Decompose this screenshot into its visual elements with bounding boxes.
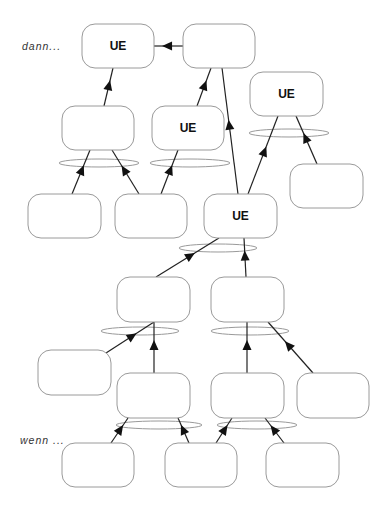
arrowhead-icon xyxy=(259,145,271,158)
node-box xyxy=(297,373,369,418)
nodes: UEUEUEUE xyxy=(28,24,369,487)
node-box xyxy=(290,164,363,208)
arrowhead-icon xyxy=(240,250,250,260)
argument-tree-diagram: UEUEUEUE dann... wenn ... xyxy=(0,0,389,516)
diagram-canvas: UEUEUEUE dann... wenn ... xyxy=(0,0,389,516)
node-empty[interactable] xyxy=(183,24,255,68)
node-box xyxy=(211,277,284,322)
conjunction-ellipse xyxy=(116,421,202,429)
node-empty[interactable] xyxy=(290,164,363,208)
node-ue[interactable]: UE xyxy=(152,106,224,150)
node-box xyxy=(117,277,190,322)
conjunction-ellipse xyxy=(59,159,139,167)
node-ue[interactable]: UE xyxy=(204,194,277,238)
label-dann: dann... xyxy=(22,40,61,52)
node-ue[interactable]: UE xyxy=(250,72,323,116)
node-box xyxy=(183,24,255,68)
node-empty[interactable] xyxy=(38,350,111,395)
arrowhead-icon xyxy=(126,329,139,342)
node-empty[interactable] xyxy=(211,373,284,418)
node-label: UE xyxy=(232,209,249,223)
arrowhead-icon xyxy=(224,119,234,130)
node-empty[interactable] xyxy=(28,194,101,238)
conjunction-ellipse xyxy=(179,244,257,252)
node-label: UE xyxy=(110,39,127,53)
arrowhead-icon xyxy=(162,42,172,51)
node-empty[interactable] xyxy=(165,443,237,487)
node-ue[interactable]: UE xyxy=(82,24,154,68)
node-empty[interactable] xyxy=(297,373,369,418)
node-box xyxy=(62,106,134,150)
node-empty[interactable] xyxy=(62,106,134,150)
arrowhead-icon xyxy=(164,164,176,177)
node-box xyxy=(115,194,187,238)
node-empty[interactable] xyxy=(117,373,190,418)
node-box xyxy=(211,373,284,418)
node-box xyxy=(266,443,339,487)
node-empty[interactable] xyxy=(266,443,339,487)
node-box xyxy=(117,373,190,418)
arrowhead-icon xyxy=(218,423,231,436)
node-box xyxy=(28,194,101,238)
arrowhead-icon xyxy=(299,131,311,144)
conjunction-ellipse xyxy=(249,129,329,137)
node-empty[interactable] xyxy=(211,277,284,322)
arrowhead-icon xyxy=(199,79,211,91)
node-empty[interactable] xyxy=(62,443,134,487)
conjunction-ellipse xyxy=(211,327,289,335)
arrowhead-icon xyxy=(177,423,189,436)
node-empty[interactable] xyxy=(117,277,190,322)
arrowhead-icon xyxy=(243,340,252,350)
arrowhead-icon xyxy=(103,79,114,91)
arrowhead-icon xyxy=(76,163,88,176)
node-empty[interactable] xyxy=(115,194,187,238)
node-box xyxy=(38,350,111,395)
node-label: UE xyxy=(278,87,295,101)
node-box xyxy=(165,443,237,487)
conjunction-ellipse xyxy=(150,159,230,167)
node-box xyxy=(62,443,134,487)
arrowhead-icon xyxy=(150,340,159,350)
arrowhead-icon xyxy=(118,163,131,176)
node-label: UE xyxy=(180,121,197,135)
label-wenn: wenn ... xyxy=(20,434,65,446)
